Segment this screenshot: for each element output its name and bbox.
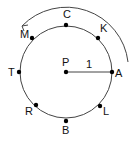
- center-label: P: [62, 56, 69, 68]
- point-label-c: C: [63, 8, 71, 20]
- point-label-b: B: [62, 124, 69, 136]
- point-a: [110, 70, 114, 74]
- point-label-a: A: [115, 67, 123, 79]
- unit-circle-diagram: CKALBRTM P 1: [0, 0, 134, 147]
- point-r: [34, 103, 38, 107]
- point-label-k: K: [100, 22, 108, 34]
- rotation-arc: [22, 7, 128, 62]
- center-point: [64, 70, 68, 74]
- point-l: [98, 104, 102, 108]
- point-m: [30, 36, 34, 40]
- point-label-t: T: [8, 66, 15, 78]
- point-b: [64, 119, 68, 123]
- point-label-l: L: [103, 105, 109, 117]
- radius-label: 1: [86, 58, 92, 70]
- point-c: [64, 23, 68, 27]
- point-k: [96, 36, 100, 40]
- point-t: [17, 70, 21, 74]
- point-label-r: R: [25, 105, 33, 117]
- point-label-m: M: [20, 28, 29, 40]
